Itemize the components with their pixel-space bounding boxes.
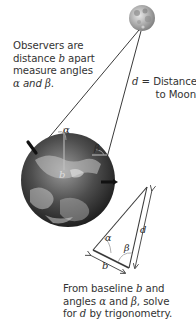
caption-baseline: From baseline b and angles α and β, solv… <box>63 283 195 321</box>
var-alpha: α <box>13 78 20 89</box>
caption-baseline-line2: angles α and β, solve <box>63 296 195 309</box>
caption-baseline-line1: From baseline b and <box>63 283 195 296</box>
b-label-triangle: b <box>102 260 108 271</box>
alpha-label-main: α <box>63 124 70 135</box>
text: and <box>106 296 131 307</box>
text: and <box>142 283 164 294</box>
moon-image <box>129 5 155 31</box>
text: angles <box>63 296 99 307</box>
earth-image <box>21 133 115 227</box>
text: From baseline <box>63 283 136 294</box>
text: distance <box>13 53 59 64</box>
caption-distance-line1: d = Distance <box>132 76 196 89</box>
caption-distance-line2: to Moon <box>132 89 196 102</box>
text: by trigonometry. <box>86 308 172 319</box>
text: , solve <box>137 296 169 307</box>
caption-observers-line1: Observers are <box>13 40 108 53</box>
caption-observers-line4: α and β. <box>13 78 108 91</box>
beta-label-triangle: β <box>123 242 130 253</box>
text: for <box>63 308 80 319</box>
text: . <box>51 78 54 89</box>
text: apart <box>65 53 95 64</box>
alpha-label-triangle: α <box>105 232 112 243</box>
text: = Distance <box>138 76 196 87</box>
text: and <box>20 78 45 89</box>
caption-observers-line3: measure angles <box>13 65 108 78</box>
beta-label-main: β <box>93 142 100 153</box>
caption-observers: Observers are distance b apart measure a… <box>13 40 108 90</box>
d-label-triangle: d <box>140 224 146 235</box>
caption-observers-line2: distance b apart <box>13 53 108 66</box>
parallax-diagram: α β b α β d b Observers are distance b a… <box>0 0 196 327</box>
b-label-main: b <box>59 169 65 180</box>
caption-distance: d = Distance to Moon <box>132 76 196 101</box>
var-alpha: α <box>99 296 106 307</box>
caption-baseline-line3: for d by trigonometry. <box>63 308 195 321</box>
